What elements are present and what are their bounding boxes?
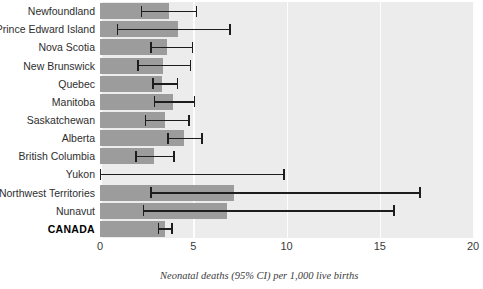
confidence-interval-cap-upper bbox=[188, 115, 189, 126]
confidence-interval-line bbox=[135, 156, 174, 157]
chart-row: Northwest Territories bbox=[100, 184, 473, 202]
confidence-interval-line bbox=[117, 29, 231, 30]
confidence-interval-cap-lower bbox=[100, 169, 101, 180]
gridline bbox=[473, 2, 475, 238]
confidence-interval-line bbox=[141, 11, 197, 12]
confidence-interval-cap-upper bbox=[196, 6, 197, 17]
confidence-interval-line bbox=[154, 101, 195, 102]
x-tick-label: 5 bbox=[190, 240, 196, 252]
confidence-interval-cap-lower bbox=[145, 115, 146, 126]
chart-row: Yukon bbox=[100, 165, 473, 183]
confidence-interval-cap-upper bbox=[173, 151, 174, 162]
x-axis: 05101520 bbox=[100, 238, 473, 258]
plot-area: NewfoundlandPrince Edward IslandNova Sco… bbox=[100, 2, 473, 238]
confidence-interval-cap-upper bbox=[393, 205, 394, 216]
confidence-interval-line bbox=[167, 138, 202, 139]
category-label: CANADA bbox=[0, 220, 95, 238]
confidence-interval-cap-lower bbox=[150, 42, 151, 53]
confidence-interval-line bbox=[152, 83, 178, 84]
category-label: Prince Edward Island bbox=[0, 20, 95, 38]
category-label: Nunavut bbox=[0, 202, 95, 220]
category-label: Yukon bbox=[0, 165, 95, 183]
neonatal-deaths-bar-chart: NewfoundlandPrince Edward IslandNova Sco… bbox=[0, 0, 483, 289]
category-label: British Columbia bbox=[0, 147, 95, 165]
confidence-interval-cap-lower bbox=[135, 151, 136, 162]
category-label: Nova Scotia bbox=[0, 38, 95, 56]
category-label: Newfoundland bbox=[0, 2, 95, 20]
chart-row: Saskatchewan bbox=[100, 111, 473, 129]
category-label: Saskatchewan bbox=[0, 111, 95, 129]
category-label: Manitoba bbox=[0, 93, 95, 111]
x-tick-label: 15 bbox=[374, 240, 386, 252]
chart-row: British Columbia bbox=[100, 147, 473, 165]
chart-row: CANADA bbox=[100, 220, 473, 238]
confidence-interval-line bbox=[100, 174, 285, 175]
confidence-interval-cap-lower bbox=[150, 187, 151, 198]
confidence-interval-cap-upper bbox=[229, 24, 230, 35]
confidence-interval-line bbox=[150, 47, 193, 48]
x-tick-label: 10 bbox=[280, 240, 292, 252]
category-label: Northwest Territories bbox=[0, 184, 95, 202]
confidence-interval-cap-lower bbox=[152, 78, 153, 89]
chart-row: Alberta bbox=[100, 129, 473, 147]
confidence-interval-cap-upper bbox=[283, 169, 284, 180]
confidence-interval-cap-upper bbox=[419, 187, 420, 198]
chart-row: Quebec bbox=[100, 75, 473, 93]
chart-row: Nova Scotia bbox=[100, 38, 473, 56]
x-tick-label: 0 bbox=[97, 240, 103, 252]
confidence-interval-cap-upper bbox=[177, 78, 178, 89]
chart-row: Prince Edward Island bbox=[100, 20, 473, 38]
chart-row: Manitoba bbox=[100, 93, 473, 111]
confidence-interval-cap-lower bbox=[158, 223, 159, 234]
confidence-interval-line bbox=[150, 192, 420, 193]
category-label: New Brunswick bbox=[0, 57, 95, 75]
chart-row: Newfoundland bbox=[100, 2, 473, 20]
confidence-interval-cap-lower bbox=[154, 96, 155, 107]
confidence-interval-line bbox=[137, 65, 191, 66]
bar bbox=[100, 221, 165, 237]
confidence-interval-cap-upper bbox=[171, 223, 172, 234]
category-label: Quebec bbox=[0, 75, 95, 93]
confidence-interval-line bbox=[145, 120, 190, 121]
category-label: Alberta bbox=[0, 129, 95, 147]
confidence-interval-cap-upper bbox=[190, 60, 191, 71]
x-tick-label: 20 bbox=[467, 240, 479, 252]
confidence-interval-cap-lower bbox=[141, 6, 142, 17]
confidence-interval-cap-upper bbox=[192, 42, 193, 53]
confidence-interval-cap-lower bbox=[117, 24, 118, 35]
confidence-interval-cap-upper bbox=[194, 96, 195, 107]
confidence-interval-cap-lower bbox=[167, 133, 168, 144]
confidence-interval-line bbox=[143, 210, 395, 211]
chart-row: Nunavut bbox=[100, 202, 473, 220]
confidence-interval-cap-upper bbox=[201, 133, 202, 144]
x-axis-caption: Neonatal deaths (95% CI) per 1,000 live … bbox=[160, 270, 460, 281]
confidence-interval-cap-lower bbox=[143, 205, 144, 216]
chart-row: New Brunswick bbox=[100, 57, 473, 75]
confidence-interval-cap-lower bbox=[137, 60, 138, 71]
